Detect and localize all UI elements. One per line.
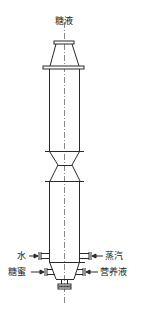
molasses-inlet-nozzle [31,268,55,276]
label-steam: 蒸汽 [105,251,123,261]
steam-inlet-nozzle [80,252,104,260]
water-inlet-nozzle [29,252,50,260]
label-top-inlet: 糖液 [55,16,73,26]
label-molasses: 糖蜜 [8,267,26,277]
label-water: 水 [17,251,26,261]
nutrient-inlet-nozzle [75,268,98,276]
upper-body-flange [43,66,84,69]
label-nutrient: 营养液 [100,267,127,277]
top-flange [54,41,74,44]
